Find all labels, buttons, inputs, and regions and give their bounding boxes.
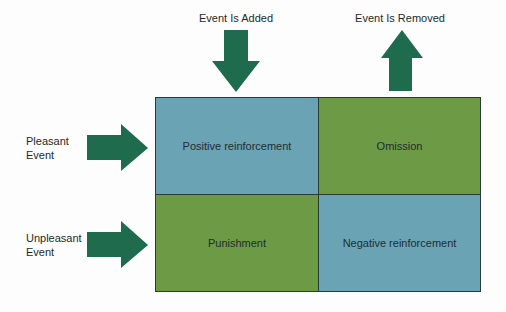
row-label-unpleasant-line1: Unpleasant — [26, 231, 96, 245]
cell-label: Negative reinforcement — [343, 237, 457, 249]
cell-label: Punishment — [208, 237, 266, 249]
cell-punishment: Punishment — [156, 195, 319, 291]
up-arrow-icon — [380, 30, 424, 92]
right-arrow-icon — [87, 221, 149, 269]
row-label-unpleasant-line2: Event — [26, 245, 96, 259]
cell-positive-reinforcement: Positive reinforcement — [156, 98, 319, 195]
cell-omission: Omission — [319, 98, 480, 195]
column-label-event-removed: Event Is Removed — [330, 11, 470, 25]
down-arrow-icon — [211, 30, 261, 93]
column-label-event-added: Event Is Added — [166, 11, 306, 25]
row-label-unpleasant: Unpleasant Event — [26, 231, 96, 259]
row-label-pleasant: Pleasant Event — [26, 134, 96, 162]
outcome-matrix: Positive reinforcement Omission Punishme… — [155, 97, 481, 292]
cell-label: Omission — [377, 140, 423, 152]
cell-negative-reinforcement: Negative reinforcement — [319, 195, 480, 291]
cell-label: Positive reinforcement — [183, 140, 292, 152]
right-arrow-icon — [87, 124, 149, 172]
row-label-pleasant-line1: Pleasant — [26, 134, 96, 148]
row-label-pleasant-line2: Event — [26, 148, 96, 162]
